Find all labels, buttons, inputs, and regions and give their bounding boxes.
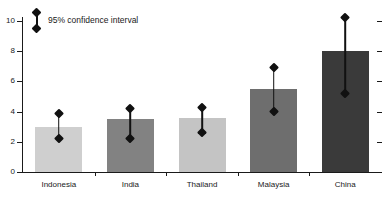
error-bar-lower-marker: [197, 128, 207, 138]
error-bar: [120, 0, 140, 199]
x-axis-category-label: Indonesia: [23, 180, 95, 189]
error-bar: [335, 0, 355, 199]
y-axis-tick-label: 6: [0, 77, 15, 85]
x-axis-category-label: China: [309, 180, 381, 189]
y-axis-tick: [17, 81, 22, 82]
error-bar-line: [273, 68, 275, 112]
right-axis-tick: [377, 81, 382, 82]
error-bar-lower-marker: [269, 107, 279, 117]
x-axis-category-label: Malaysia: [238, 180, 310, 189]
y-axis-tick: [17, 112, 22, 113]
y-axis-line: [22, 17, 23, 173]
y-axis-tick-label: 8: [0, 47, 15, 55]
error-bar-upper-marker: [197, 102, 207, 112]
x-axis-tick: [238, 172, 239, 176]
error-bar: [264, 0, 284, 199]
error-bar-upper-marker: [340, 13, 350, 23]
error-bar-lower-marker: [125, 134, 135, 144]
error-bar-upper-marker: [269, 63, 279, 73]
y-axis-tick-label: 4: [0, 108, 15, 116]
right-axis-tick: [377, 51, 382, 52]
error-bar-lower-marker: [340, 89, 350, 99]
right-axis-tick: [377, 172, 382, 173]
y-axis-tick: [17, 142, 22, 143]
error-bar-upper-marker: [125, 104, 135, 114]
legend-error-bar-icon: [36, 12, 38, 28]
y-axis-tick: [17, 172, 22, 173]
error-bar-line: [344, 18, 346, 94]
y-axis-tick: [17, 21, 22, 22]
y-axis-tick-label: 0: [0, 168, 15, 176]
right-axis-tick: [377, 112, 382, 113]
x-axis-tick: [95, 172, 96, 176]
x-axis-tick: [309, 172, 310, 176]
legend-diamond-bottom-icon: [32, 23, 42, 33]
legend-diamond-top-icon: [32, 7, 42, 17]
x-axis-category-label: India: [95, 180, 167, 189]
error-bar: [49, 0, 69, 199]
y-axis-tick: [17, 51, 22, 52]
x-axis-tick: [166, 172, 167, 176]
y-axis-tick-label: 10: [0, 17, 15, 25]
bar-chart-with-confidence-intervals: 95% confidence interval 0246810 Indonesi…: [0, 0, 392, 199]
right-axis-tick: [377, 21, 382, 22]
error-bar-upper-marker: [54, 108, 64, 118]
error-bar: [192, 0, 212, 199]
right-axis-tick: [377, 142, 382, 143]
x-axis-category-label: Thailand: [166, 180, 238, 189]
y-axis-tick-label: 2: [0, 138, 15, 146]
error-bar-lower-marker: [54, 134, 64, 144]
